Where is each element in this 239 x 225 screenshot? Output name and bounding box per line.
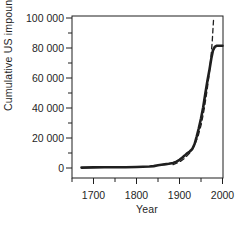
x-axis-title: Year: [0, 203, 239, 215]
cumulative-impoundment-chart: 1700180019002000020 00040 00060 00080 00…: [0, 0, 239, 225]
plot-canvas: 1700180019002000020 00040 00060 00080 00…: [0, 0, 239, 225]
observed-solid-line: [82, 46, 223, 168]
x-tick-label: 1700: [82, 189, 106, 201]
trend-dashed-line: [173, 17, 214, 164]
y-tick-label: 20 000: [32, 132, 64, 144]
x-tick-label: 2000: [211, 189, 235, 201]
y-tick-label: 60 000: [32, 72, 64, 84]
plot-border: [72, 16, 223, 178]
x-tick-label: 1800: [125, 189, 149, 201]
y-tick-label: 80 000: [32, 42, 64, 54]
y-tick-label: 40 000: [32, 102, 64, 114]
y-tick-label: 0: [58, 162, 64, 174]
x-tick-label: 1900: [168, 189, 192, 201]
y-tick-label: 100 000: [26, 12, 64, 24]
